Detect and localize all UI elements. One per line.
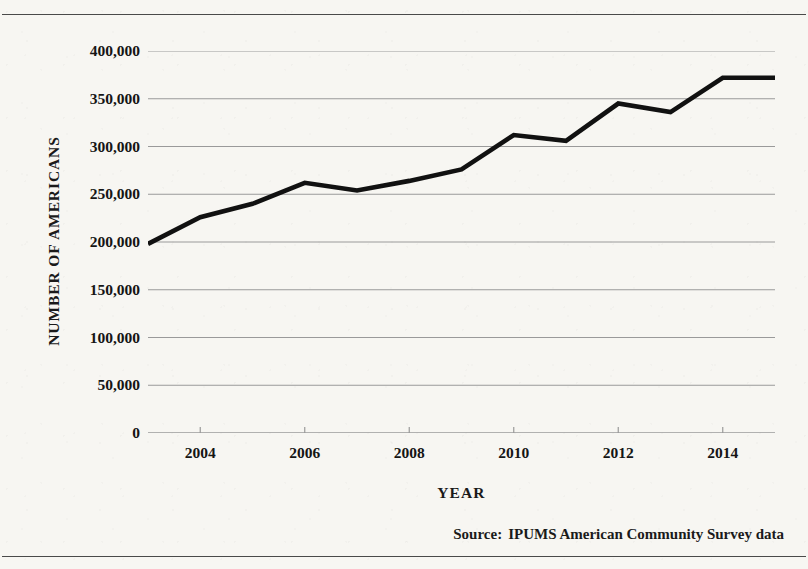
data-series-line [148, 78, 775, 244]
bottom-divider-rule [2, 556, 806, 557]
x-axis-tick-label: 2010 [498, 444, 529, 462]
gridlines [148, 51, 775, 433]
source-label: Source: [453, 526, 502, 542]
y-axis-tick-label: 400,000 [30, 42, 140, 60]
x-axis-tick-labels: 200420062008201020122014 [148, 444, 775, 468]
chart-page: NUMBER OF AMERICANS 050,000100,000150,00… [0, 0, 808, 569]
y-axis-tick-label: 300,000 [30, 138, 140, 156]
y-axis-tick-label: 250,000 [30, 185, 140, 203]
y-axis-tick-label: 200,000 [30, 233, 140, 251]
x-axis-tick-label: 2008 [394, 444, 425, 462]
y-axis-tick-labels: 050,000100,000150,000200,000250,000300,0… [22, 51, 140, 433]
x-axis-tick-label: 2006 [289, 444, 320, 462]
line-chart-svg [148, 51, 775, 433]
y-axis-tick-label: 150,000 [30, 281, 140, 299]
y-axis-tick-label: 50,000 [30, 376, 140, 394]
source-note: Source:IPUMS American Community Survey d… [453, 526, 784, 543]
plot-area [148, 51, 775, 433]
x-axis-ticks [200, 427, 723, 433]
y-axis-tick-label: 350,000 [30, 90, 140, 108]
x-axis-tick-label: 2004 [185, 444, 216, 462]
y-axis-tick-label: 100,000 [30, 329, 140, 347]
top-divider-rule [2, 14, 806, 15]
x-axis-tick-label: 2012 [603, 444, 634, 462]
y-axis-tick-label: 0 [30, 424, 140, 442]
x-axis-title: YEAR [148, 484, 775, 502]
x-axis-tick-label: 2014 [707, 444, 738, 462]
source-text: IPUMS American Community Survey data [508, 526, 784, 542]
